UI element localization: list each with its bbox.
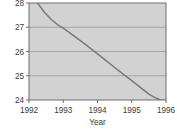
chart-canvas: 2425262728 19921993199419951996 Year bbox=[0, 0, 177, 136]
y-axis-tick-label: 24 bbox=[15, 96, 25, 105]
x-axis-title: Year bbox=[89, 118, 106, 127]
y-axis-tick-label: 28 bbox=[15, 0, 25, 8]
x-axis-tick-label: 1994 bbox=[88, 106, 107, 115]
x-axis-tick-label: 1993 bbox=[54, 106, 73, 115]
y-axis-tick-label: 27 bbox=[15, 23, 25, 32]
x-axis-tick-label: 1995 bbox=[123, 106, 142, 115]
x-axis-tick-label: 1996 bbox=[157, 106, 176, 115]
x-axis-tick-label: 1992 bbox=[20, 106, 39, 115]
chart-figure: 2425262728 19921993199419951996 Year bbox=[0, 0, 177, 136]
y-axis-tick-label: 26 bbox=[15, 48, 25, 57]
y-axis-tick-label: 25 bbox=[15, 72, 25, 81]
